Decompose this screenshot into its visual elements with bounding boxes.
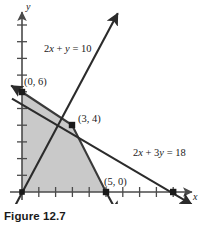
- point-label-5-0: (5, 0): [104, 176, 127, 188]
- line2-equation-label: 2x + 3y = 18: [133, 147, 186, 158]
- line2-eq-equals: =: [164, 147, 175, 158]
- line2-eq-rhs: 18: [175, 147, 186, 158]
- point-marker-origin: [19, 189, 25, 195]
- point-label-0-6: (0, 6): [24, 76, 47, 88]
- coordinate-plot: 2x + y = 10 2x + 3y = 18 (0, 6) (3, 4) (…: [0, 0, 204, 204]
- x-axis-label: x: [192, 191, 198, 202]
- point-marker-3-4: [69, 122, 75, 128]
- feasible-region-shading: [22, 92, 106, 192]
- point-marker-5-0: [103, 189, 109, 195]
- point-label-3-4: (3, 4): [78, 113, 101, 125]
- line1-eq-equals: =: [70, 43, 81, 54]
- point-marker-0-6: [19, 89, 25, 95]
- line1-eq-plus: +: [54, 43, 65, 54]
- y-axis-label: y: [25, 1, 31, 12]
- point-marker-9-0: [170, 189, 176, 195]
- line1-equation-label: 2x + y = 10: [44, 43, 91, 54]
- line2-eq-plus: +: [143, 147, 154, 158]
- figure-container: 2x + y = 10 2x + 3y = 18 (0, 6) (3, 4) (…: [0, 0, 204, 231]
- line1-eq-rhs: 10: [81, 43, 92, 54]
- figure-caption: Figure 12.7: [4, 210, 66, 222]
